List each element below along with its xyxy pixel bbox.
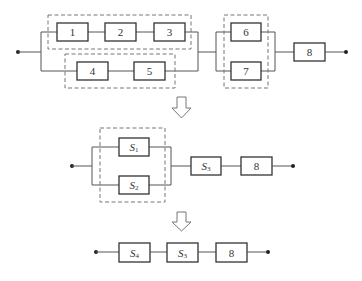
block-1: 1 [57,23,88,41]
output-terminal-dot [291,164,295,168]
stage-3-diagram: S4 S3 8 [94,243,270,262]
block-8-label: 8 [307,46,313,58]
block-5: 5 [134,62,165,80]
block-3-label: 3 [167,26,173,38]
block-6-label: 6 [243,26,249,38]
block-6: 6 [231,23,261,41]
down-arrow-icon [172,212,191,231]
block-4-label: 4 [90,65,96,77]
block-s1: S1 [119,138,149,156]
block-7: 7 [231,62,261,80]
block-1-label: 1 [70,26,76,38]
block-8: 8 [216,243,247,262]
output-terminal-dot [344,50,348,54]
block-4: 4 [77,62,108,80]
stage-1-diagram: 1 2 3 4 5 6 7 [16,15,348,88]
block-8-label: 8 [229,247,235,259]
stage-2-diagram: S1 S2 S3 8 [70,128,295,202]
block-2: 2 [105,23,136,41]
block-8: 8 [241,157,272,175]
block-s4: S4 [119,243,150,262]
block-s3: S3 [167,243,198,262]
block-8-label: 8 [254,160,260,172]
block-s2: S2 [119,176,149,194]
block-s3: S3 [191,157,221,175]
block-3: 3 [154,23,185,41]
block-7-label: 7 [243,65,249,77]
reliability-diagram: 1 2 3 4 5 6 7 [0,0,362,281]
block-5-label: 5 [147,65,153,77]
block-8: 8 [294,43,325,61]
block-2-label: 2 [118,26,124,38]
output-terminal-dot [266,250,270,254]
down-arrow-icon [172,97,191,118]
